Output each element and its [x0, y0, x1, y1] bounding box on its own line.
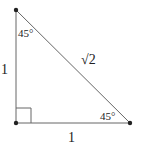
vertex-bottom-right — [128, 121, 132, 125]
bottom-right-angle-label: 45° — [100, 111, 115, 122]
vertex-top — [14, 8, 18, 12]
right-angle-marker — [16, 108, 31, 123]
bottom-side-label: 1 — [68, 131, 75, 145]
hypotenuse — [16, 10, 130, 123]
top-angle-label: 45° — [18, 28, 33, 39]
vertex-bottom-left — [14, 121, 18, 125]
hypotenuse-label: √2 — [81, 53, 96, 67]
left-side-label: 1 — [1, 63, 8, 77]
